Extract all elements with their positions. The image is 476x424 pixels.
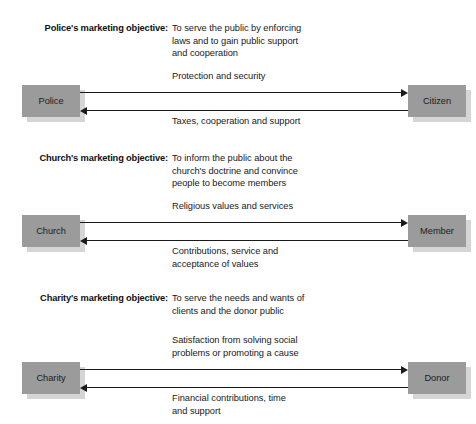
- entity-label-member: Member: [420, 226, 454, 237]
- entity-box-charity: Charity: [22, 362, 80, 394]
- outbound-flow-label-charity: Satisfaction from solving social problem…: [172, 334, 472, 359]
- outbound-flow-label-police: Protection and security: [172, 70, 472, 83]
- arrow-head-right-charity: [401, 366, 408, 374]
- flow-line: Religious values and services: [172, 200, 472, 213]
- inbound-flow-label-church: Contributions, service and acceptance of…: [172, 245, 472, 270]
- objective-text-church: To inform the public about the church's …: [172, 152, 472, 190]
- arrow-head-right-church: [401, 219, 408, 227]
- flow-line: Taxes, cooperation and support: [172, 115, 472, 128]
- entity-label-citizen: Citizen: [423, 96, 451, 107]
- inbound-flow-label-police: Taxes, cooperation and support: [172, 115, 472, 128]
- arrow-line-member-to-church: [87, 240, 408, 241]
- outbound-flow-label-church: Religious values and services: [172, 200, 472, 213]
- section-police: Police's marketing objective: To serve t…: [0, 22, 476, 140]
- entity-label-donor: Donor: [424, 373, 449, 384]
- arrow-line-charity-to-donor: [80, 369, 401, 370]
- entity-box-member: Member: [408, 215, 466, 247]
- arrow-head-left-police: [80, 107, 87, 115]
- flow-line: problems or promoting a cause: [172, 347, 472, 360]
- objective-label-church: Church's marketing objective:: [0, 152, 168, 165]
- inbound-flow-label-charity: Financial contributions, time and suppor…: [172, 392, 472, 417]
- objective-line: To inform the public about the: [172, 152, 472, 165]
- entity-label-church: Church: [36, 226, 66, 237]
- flow-line: and support: [172, 405, 472, 418]
- objective-text-charity: To serve the needs and wants of clients …: [172, 292, 472, 317]
- flow-line: Financial contributions, time: [172, 392, 472, 405]
- entity-label-charity: Charity: [36, 373, 65, 384]
- objective-line: people to become members: [172, 177, 472, 190]
- objective-line: To serve the public by enforcing: [172, 22, 472, 35]
- flow-line: acceptance of values: [172, 258, 472, 271]
- arrow-line-church-to-member: [80, 222, 401, 223]
- entity-label-police: Police: [38, 96, 63, 107]
- objective-label-police: Police's marketing objective:: [0, 22, 168, 35]
- objective-line: and cooperation: [172, 47, 472, 60]
- objective-line: laws and to gain public support: [172, 35, 472, 48]
- objective-label-charity: Charity's marketing objective:: [0, 292, 168, 305]
- entity-box-citizen: Citizen: [408, 85, 466, 117]
- section-church: Church's marketing objective: To inform …: [0, 152, 476, 278]
- flow-line: Satisfaction from solving social: [172, 334, 472, 347]
- objective-line: clients and the donor public: [172, 305, 472, 318]
- flow-line: Contributions, service and: [172, 245, 472, 258]
- arrow-head-right-police: [401, 89, 408, 97]
- exchange-flow-diagram: Police's marketing objective: To serve t…: [0, 0, 476, 424]
- objective-text-police: To serve the public by enforcing laws an…: [172, 22, 472, 60]
- entity-box-police: Police: [22, 85, 80, 117]
- objective-line: To serve the needs and wants of: [172, 292, 472, 305]
- arrow-line-donor-to-charity: [87, 387, 408, 388]
- entity-box-donor: Donor: [408, 362, 466, 394]
- objective-line: church's doctrine and convince: [172, 165, 472, 178]
- flow-line: Protection and security: [172, 70, 472, 83]
- arrow-line-citizen-to-police: [87, 110, 408, 111]
- section-charity: Charity's marketing objective: To serve …: [0, 292, 476, 418]
- arrow-head-left-charity: [80, 384, 87, 392]
- arrow-line-police-to-citizen: [80, 92, 401, 93]
- entity-box-church: Church: [22, 215, 80, 247]
- arrow-head-left-church: [80, 237, 87, 245]
